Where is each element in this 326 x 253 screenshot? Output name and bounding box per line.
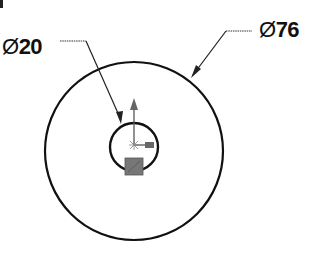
outer-circle[interactable] [45, 62, 223, 240]
origin-triad-icon [125, 98, 154, 175]
leader-diameter-20 [60, 41, 123, 124]
leader-diameter-76 [191, 31, 252, 78]
drawing-canvas [0, 0, 326, 253]
arrowhead-icon [116, 111, 123, 124]
